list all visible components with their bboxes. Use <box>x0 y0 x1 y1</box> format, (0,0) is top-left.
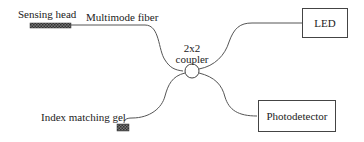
photodetector-fiber-line <box>199 73 257 116</box>
fiber-sensor-diagram: Sensing head Multimode fiber 2x2 coupler… <box>0 0 364 142</box>
photodetector-box: Photodetector <box>258 100 336 132</box>
index-matching-gel-icon <box>117 124 129 131</box>
multimode-fiber-label: Multimode fiber <box>86 12 158 23</box>
gel-fiber-line <box>124 73 185 123</box>
coupler-icon <box>185 64 199 78</box>
coupler-label-line2: coupler <box>172 54 212 65</box>
index-matching-gel-label: Index matching gel <box>41 112 126 123</box>
led-fiber-line <box>199 23 302 69</box>
sensing-head-label: Sensing head <box>18 9 76 20</box>
led-box: LED <box>302 8 348 38</box>
photodetector-label: Photodetector <box>266 110 327 122</box>
led-label: LED <box>314 17 335 29</box>
sensing-head-icon <box>30 23 71 28</box>
multimode-fiber-line <box>71 25 183 71</box>
